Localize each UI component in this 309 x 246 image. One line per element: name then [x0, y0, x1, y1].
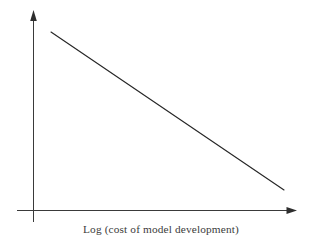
x-axis-group	[17, 207, 297, 214]
data-series-group	[51, 32, 284, 190]
y-axis-arrow-icon	[30, 10, 37, 21]
chart-canvas	[0, 0, 309, 246]
y-axis-group	[30, 10, 37, 222]
x-axis-label: Log (cost of model development)	[0, 222, 309, 236]
chart-figure: Log (cost of model development)	[0, 0, 309, 246]
x-axis-arrow-icon	[287, 207, 298, 214]
trend-line-downward	[51, 32, 284, 190]
